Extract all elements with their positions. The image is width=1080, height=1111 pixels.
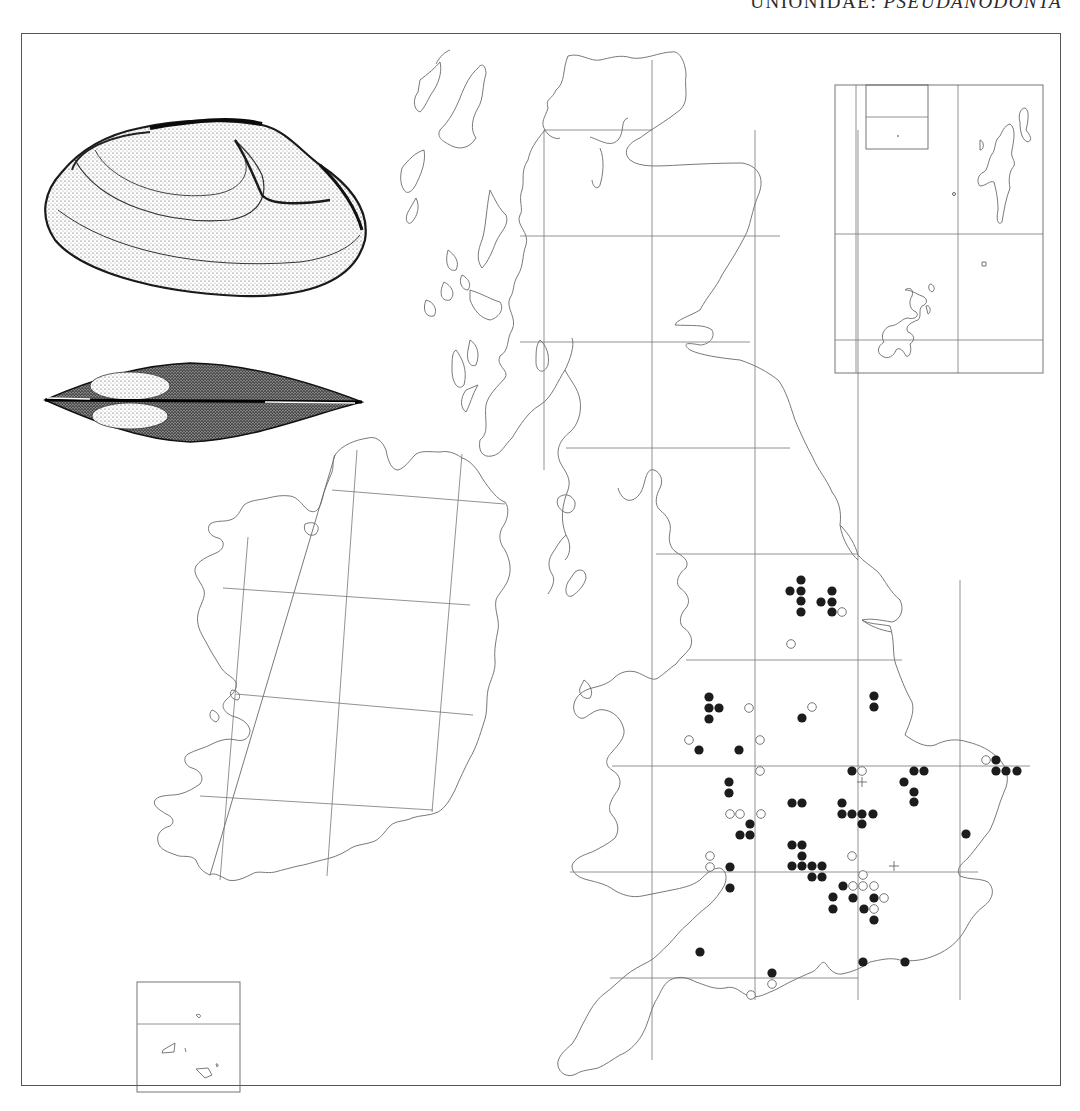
record-dot-filled xyxy=(797,798,806,807)
record-dot-filled xyxy=(734,745,743,754)
record-dot-open xyxy=(757,810,766,819)
record-dot-filled xyxy=(847,809,856,818)
record-dot-filled xyxy=(857,809,866,818)
record-dot-filled xyxy=(899,777,908,786)
record-dot-filled xyxy=(828,892,837,901)
record-dot-filled xyxy=(745,819,754,828)
record-dot-filled xyxy=(785,586,794,595)
record-dot-open xyxy=(787,640,796,649)
record-dot-filled xyxy=(725,883,734,892)
record-dot-filled xyxy=(797,713,806,722)
record-dot-filled xyxy=(1001,766,1010,775)
record-dot-open xyxy=(859,882,868,891)
grid-ireland xyxy=(200,450,505,880)
shell-dorsal-illustration xyxy=(45,363,362,442)
inset-channel-islands xyxy=(137,982,240,1092)
coastline-scotland xyxy=(401,50,858,560)
coastline-england-wales xyxy=(548,470,1007,1076)
record-dot-filled xyxy=(704,703,713,712)
shell-lateral-illustration xyxy=(45,120,366,296)
record-dot-open xyxy=(685,736,694,745)
record-dot-filled xyxy=(868,809,877,818)
record-dot-filled xyxy=(909,797,918,806)
record-dot-open xyxy=(838,608,847,617)
coastline-ireland xyxy=(154,438,510,881)
distribution-map xyxy=(0,0,1080,1111)
record-dot-filled xyxy=(909,766,918,775)
record-dot-filled xyxy=(704,692,713,701)
record-dot-filled xyxy=(807,872,816,881)
record-dot-filled xyxy=(991,755,1000,764)
record-dot-filled xyxy=(807,861,816,870)
record-dot-filled xyxy=(900,957,909,966)
record-dot-filled xyxy=(767,968,776,977)
record-dot-filled xyxy=(704,714,713,723)
record-dot-filled xyxy=(827,586,836,595)
record-dot-open xyxy=(756,736,765,745)
record-dot-filled xyxy=(859,904,868,913)
record-dot-open xyxy=(849,882,858,891)
record-dot-filled xyxy=(787,840,796,849)
record-dot-filled xyxy=(1012,766,1021,775)
record-dot-filled xyxy=(827,607,836,616)
record-dot-open xyxy=(745,704,754,713)
record-dot-filled xyxy=(724,788,733,797)
record-dot-open xyxy=(870,882,879,891)
record-dot-filled xyxy=(694,745,703,754)
record-dot-filled xyxy=(695,947,704,956)
record-dot-filled xyxy=(796,586,805,595)
record-cross-icon xyxy=(857,777,867,787)
record-dot-open xyxy=(982,756,991,765)
record-dot-filled xyxy=(797,851,806,860)
record-dot-filled xyxy=(797,861,806,870)
record-dot-filled xyxy=(725,862,734,871)
record-dot-open xyxy=(880,894,889,903)
record-dot-filled xyxy=(909,787,918,796)
record-dot-filled xyxy=(869,893,878,902)
record-dot-filled xyxy=(787,861,796,870)
record-dot-filled xyxy=(796,575,805,584)
record-dot-open xyxy=(848,852,857,861)
record-dot-filled xyxy=(827,597,836,606)
record-dot-filled xyxy=(869,702,878,711)
record-dot-filled xyxy=(919,766,928,775)
record-dot-open xyxy=(726,810,735,819)
record-dot-filled xyxy=(787,798,796,807)
record-dot-open xyxy=(808,703,817,712)
record-dot-open xyxy=(706,863,715,872)
record-dot-filled xyxy=(724,777,733,786)
record-dot-filled xyxy=(816,597,825,606)
record-dot-filled xyxy=(837,798,846,807)
record-dot-open xyxy=(736,810,745,819)
record-dot-open xyxy=(768,980,777,989)
record-dot-filled xyxy=(858,957,867,966)
record-dot-open xyxy=(756,767,765,776)
record-dot-filled xyxy=(817,872,826,881)
record-dot-filled xyxy=(869,915,878,924)
record-dot-open xyxy=(859,871,868,880)
record-dot-filled xyxy=(857,819,866,828)
record-dot-filled xyxy=(869,691,878,700)
record-dot-filled xyxy=(847,766,856,775)
inset-northern-isles xyxy=(835,85,1043,373)
record-dot-filled xyxy=(837,809,846,818)
record-cross-icon xyxy=(889,861,899,871)
record-dot-filled xyxy=(797,840,806,849)
records-layer xyxy=(685,575,1022,999)
record-dot-open xyxy=(747,991,756,1000)
record-dot-open xyxy=(858,767,867,776)
record-dot-filled xyxy=(714,703,723,712)
record-dot-filled xyxy=(735,830,744,839)
record-dot-filled xyxy=(796,596,805,605)
record-dot-open xyxy=(706,852,715,861)
record-dot-filled xyxy=(991,766,1000,775)
record-dot-open xyxy=(870,905,879,914)
record-dot-filled xyxy=(848,893,857,902)
record-dot-filled xyxy=(961,829,970,838)
record-dot-filled xyxy=(796,607,805,616)
grid-gb xyxy=(520,60,1030,1060)
record-dot-filled xyxy=(745,830,754,839)
record-dot-filled xyxy=(828,904,837,913)
record-dot-filled xyxy=(838,881,847,890)
record-dot-filled xyxy=(817,861,826,870)
